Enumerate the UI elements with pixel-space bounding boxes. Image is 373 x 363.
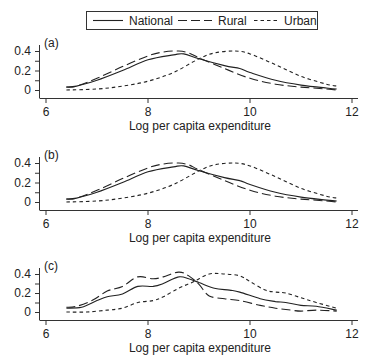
legend-label-rural: Rural (218, 14, 247, 28)
x-tick-label: 6 (43, 217, 50, 231)
y-tick-label: 0.2 (14, 176, 31, 190)
series-line-urban (66, 273, 336, 312)
x-tick-label: 12 (345, 105, 359, 119)
panel-label: (a) (44, 36, 59, 50)
density-chart-figure: National Rural Urban 00.20.4681012Log pe… (0, 0, 373, 363)
legend-label-national: National (129, 14, 173, 28)
x-tick-label: 6 (43, 105, 50, 119)
y-tick-label: 0 (24, 305, 31, 319)
x-axis-label: Log per capita expenditure (129, 231, 271, 245)
panel-a: 00.20.4681012Log per capita expenditure(… (14, 36, 359, 133)
y-tick-label: 0.2 (14, 64, 31, 78)
series-line-national (66, 277, 336, 310)
y-tick-label: 0.4 (14, 156, 31, 170)
x-axis-label: Log per capita expenditure (129, 341, 271, 355)
x-tick-label: 8 (145, 327, 152, 341)
x-tick-label: 10 (243, 327, 257, 341)
y-tick-label: 0 (24, 195, 31, 209)
y-tick-label: 0.4 (14, 44, 31, 58)
panel-label: (c) (44, 259, 58, 273)
panel-c: 00.20.4681012Log per capita expenditure(… (14, 259, 359, 355)
x-tick-label: 6 (43, 327, 50, 341)
panel-label: (b) (44, 148, 59, 162)
legend: National Rural Urban (87, 12, 318, 30)
series-line-rural (66, 272, 336, 311)
x-tick-label: 12 (345, 217, 359, 231)
x-tick-label: 10 (243, 105, 257, 119)
panel-b: 00.20.4681012Log per capita expenditure(… (14, 148, 359, 245)
x-tick-label: 8 (145, 105, 152, 119)
y-tick-label: 0.4 (14, 267, 31, 281)
legend-label-urban: Urban (284, 14, 317, 28)
y-tick-label: 0.2 (14, 286, 31, 300)
x-tick-label: 12 (345, 327, 359, 341)
y-tick-label: 0 (24, 83, 31, 97)
x-axis-label: Log per capita expenditure (129, 119, 271, 133)
x-tick-label: 10 (243, 217, 257, 231)
x-tick-label: 8 (145, 217, 152, 231)
